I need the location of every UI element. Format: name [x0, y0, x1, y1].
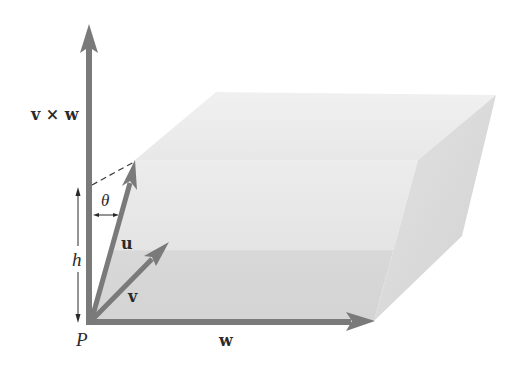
label-theta: θ [101, 191, 109, 210]
parallelepiped-diagram: v × w u v w θ h P [0, 0, 517, 375]
parallelepiped [89, 92, 496, 323]
theta-angle-arrow [93, 213, 119, 217]
label-u: u [121, 234, 133, 253]
label-v: v [127, 287, 138, 306]
label-origin-p: P [75, 329, 88, 350]
front-face [89, 160, 418, 323]
vector-v-cross-w [80, 24, 98, 325]
label-w: w [218, 331, 234, 350]
label-cross-product: v × w [30, 105, 80, 124]
label-height: h [72, 249, 82, 270]
